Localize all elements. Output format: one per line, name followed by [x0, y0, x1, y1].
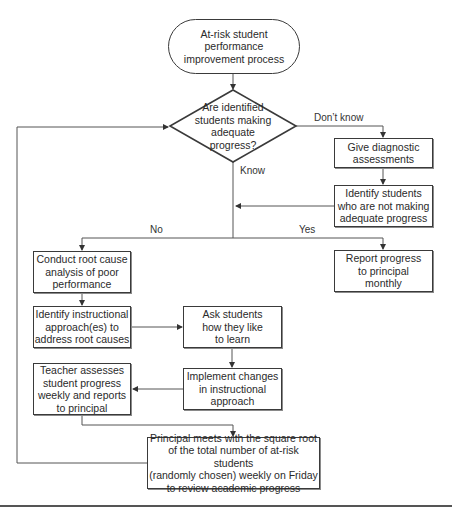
teacher-assesses-label: Teacher assesses student progress weekly… [38, 364, 126, 414]
edge-label-yes: Yes [299, 224, 315, 235]
start-terminal-label: At-risk student performance improvement … [184, 28, 284, 66]
edge-label-no: No [150, 224, 163, 235]
diagnostic-box: Give diagnostic assessments [334, 138, 433, 168]
identify-students-box: Identify students who are not making ade… [334, 185, 433, 227]
report-progress-label: Report progress to principal monthly [346, 252, 421, 290]
start-terminal: At-risk student performance improvement … [168, 19, 300, 74]
root-cause-label: Conduct root cause analysis of poor perf… [36, 253, 127, 291]
ask-students-label: Ask students how they like to learn [202, 308, 263, 346]
principal-meets-label: Principal meets with the square root of … [148, 432, 319, 495]
principal-meets-box: Principal meets with the square root of … [147, 437, 320, 489]
identify-approach-box: Identify instructional approach(es) to a… [33, 306, 131, 348]
root-cause-box: Conduct root cause analysis of poor perf… [33, 251, 131, 293]
caption-divider [0, 505, 452, 507]
ask-students-box: Ask students how they like to learn [183, 306, 282, 348]
teacher-assesses-box: Teacher assesses student progress weekly… [33, 363, 131, 415]
implement-changes-label: Implement changes in instructional appro… [187, 370, 279, 408]
implement-changes-box: Implement changes in instructional appro… [183, 368, 282, 410]
edge-label-dont-know: Don’t know [314, 112, 363, 123]
identify-students-label: Identify students who are not making ade… [338, 187, 430, 225]
decision-label: Are identified students making adequate … [183, 101, 283, 151]
diagnostic-label: Give diagnostic assessments [348, 141, 420, 166]
edge-label-know: Know [240, 165, 265, 176]
identify-approach-label: Identify instructional approach(es) to a… [35, 308, 130, 346]
report-progress-box: Report progress to principal monthly [334, 250, 433, 292]
